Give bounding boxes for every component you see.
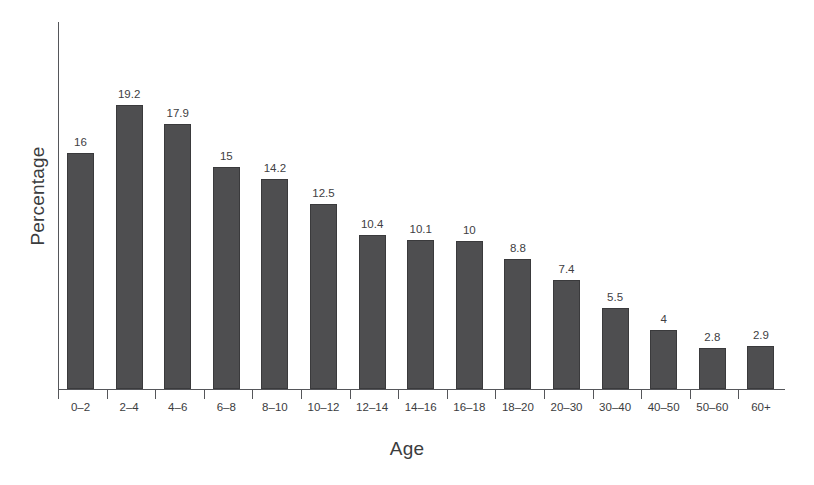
x-axis-category-label: 50–60 [684, 401, 740, 413]
x-axis-category-label: 16–18 [441, 401, 497, 413]
x-axis-tick [252, 390, 253, 399]
x-axis-category-label: 20–30 [539, 401, 595, 413]
x-axis-category-label: 4–6 [150, 401, 206, 413]
bar-value-label: 16 [56, 136, 106, 148]
bar-value-label: 10.4 [347, 218, 397, 230]
x-axis-tick [593, 390, 594, 399]
bar-value-label: 17.9 [153, 107, 203, 119]
bar-value-label: 14.2 [250, 162, 300, 174]
x-axis-title: Age [0, 438, 814, 460]
x-axis-tick [204, 390, 205, 399]
x-axis-category-label: 0–2 [53, 401, 109, 413]
x-axis-tick [398, 390, 399, 399]
bar [310, 204, 337, 389]
bar [747, 346, 774, 389]
y-axis-line [58, 22, 59, 389]
bar [359, 235, 386, 389]
x-axis-category-label: 6–8 [198, 401, 254, 413]
bar [213, 167, 240, 389]
bar [553, 280, 580, 389]
bar-value-label: 4 [639, 313, 689, 325]
x-axis-category-label: 60+ [733, 401, 789, 413]
x-axis-tick [107, 390, 108, 399]
x-axis-category-label: 8–10 [247, 401, 303, 413]
bar [407, 240, 434, 389]
bar [602, 308, 629, 389]
x-axis-category-label: 2–4 [101, 401, 157, 413]
x-axis-category-label: 12–14 [344, 401, 400, 413]
x-axis-tick [641, 390, 642, 399]
bar [67, 153, 94, 389]
x-axis-tick [544, 390, 545, 399]
x-axis-category-label: 10–12 [296, 401, 352, 413]
x-axis-tick [350, 390, 351, 399]
x-axis-category-label: 18–20 [490, 401, 546, 413]
x-axis-tick [495, 390, 496, 399]
bar [650, 330, 677, 389]
bar-value-label: 7.4 [542, 263, 592, 275]
x-axis-tick [155, 390, 156, 399]
bar-value-label: 19.2 [104, 88, 154, 100]
bar-value-label: 2.9 [736, 329, 786, 341]
bar [699, 348, 726, 389]
x-axis-tick [738, 390, 739, 399]
x-axis-tick [447, 390, 448, 399]
bar [164, 124, 191, 389]
bar [116, 105, 143, 389]
x-axis-line [58, 389, 785, 390]
bar-value-label: 8.8 [493, 242, 543, 254]
bar-value-label: 5.5 [590, 291, 640, 303]
x-axis-tick [301, 390, 302, 399]
bar-value-label: 12.5 [299, 187, 349, 199]
bar-value-label: 10.1 [396, 223, 446, 235]
x-axis-category-label: 30–40 [587, 401, 643, 413]
y-axis-title: Percentage [27, 96, 49, 296]
x-axis-tick [58, 390, 59, 399]
x-axis-tick [690, 390, 691, 399]
bar [456, 241, 483, 389]
bar-chart: Percentage 1619.217.91514.212.510.410.11… [0, 0, 814, 485]
bar-value-label: 2.8 [687, 331, 737, 343]
bar-value-label: 10 [444, 224, 494, 236]
x-axis-category-label: 14–16 [393, 401, 449, 413]
bar-value-label: 15 [201, 150, 251, 162]
bar [504, 259, 531, 389]
bar [261, 179, 288, 389]
x-axis-category-label: 40–50 [636, 401, 692, 413]
